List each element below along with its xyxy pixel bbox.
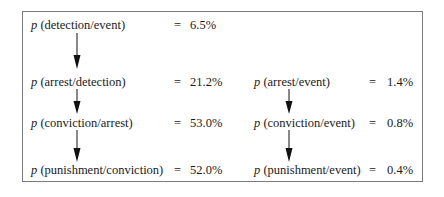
probability-symbol: p: [254, 116, 260, 130]
right-row-punishment: p (punishment/event): [254, 163, 361, 177]
condition-label: (punishment/conviction): [40, 163, 163, 177]
arrow-down-icon: [74, 89, 81, 114]
equals-sign: =: [369, 163, 376, 177]
probability-symbol: p: [254, 75, 260, 89]
equals-sign: =: [174, 75, 181, 89]
condition-label: (detection/event): [40, 18, 125, 32]
left-row-conviction: p (conviction/arrest): [31, 116, 133, 130]
value-conviction-event: 0.8%: [387, 116, 413, 130]
left-row-detection: p (detection/event): [31, 18, 125, 32]
probability-symbol: p: [31, 75, 37, 89]
condition-label: (arrest/event): [263, 75, 330, 89]
probability-symbol: p: [31, 116, 37, 130]
value-arrest-event: 1.4%: [387, 75, 413, 89]
condition-label: (conviction/event): [263, 116, 355, 130]
arrow-down-icon: [74, 130, 81, 162]
value-punishment-conviction: 52.0%: [190, 163, 222, 177]
arrow-down-icon: [74, 33, 81, 69]
equals-sign: =: [369, 116, 376, 130]
equals-sign: =: [174, 116, 181, 130]
left-row-arrest: p (arrest/detection): [31, 75, 126, 89]
probability-symbol: p: [31, 18, 37, 32]
value-conviction-arrest: 53.0%: [190, 116, 222, 130]
condition-label: (punishment/event): [263, 163, 360, 177]
equals-sign: =: [174, 163, 181, 177]
arrow-down-icon: [286, 89, 293, 114]
condition-label: (arrest/detection): [40, 75, 125, 89]
probability-symbol: p: [31, 163, 37, 177]
probability-symbol: p: [254, 163, 260, 177]
equals-sign: =: [369, 75, 376, 89]
right-row-conviction: p (conviction/event): [254, 116, 355, 130]
right-row-arrest: p (arrest/event): [254, 75, 330, 89]
left-row-punishment: p (punishment/conviction): [31, 163, 163, 177]
condition-label: (conviction/arrest): [40, 116, 132, 130]
value-arrest-detection: 21.2%: [190, 75, 222, 89]
value-detection-event: 6.5%: [190, 18, 216, 32]
equals-sign: =: [174, 18, 181, 32]
value-punishment-event: 0.4%: [387, 163, 413, 177]
arrow-down-icon: [286, 130, 293, 162]
